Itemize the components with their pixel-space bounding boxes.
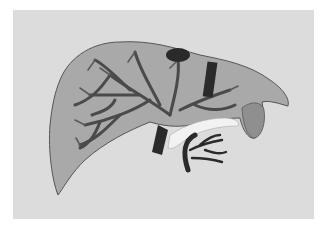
ivc-top <box>166 48 190 62</box>
liver-rendering <box>0 0 327 231</box>
